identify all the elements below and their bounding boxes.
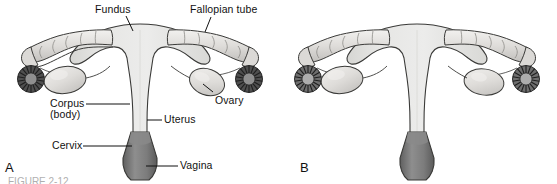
label-cervix: Cervix — [52, 140, 82, 152]
cervix-region — [129, 132, 151, 145]
leader-fallopian-tube — [205, 17, 211, 32]
label-uterus: Uterus — [164, 114, 196, 126]
ovarian-ligament-right-b — [448, 66, 467, 78]
label-vagina: Vagina — [180, 160, 213, 172]
ovary-left-b — [319, 64, 364, 97]
ovary-right-b — [462, 66, 505, 97]
cervix-vagina-group — [123, 132, 157, 180]
ovarian-ligament-right — [171, 66, 190, 78]
ovary-left — [42, 64, 87, 97]
panel-letter-a: A — [5, 160, 14, 175]
ovarian-ligament-left-b — [363, 66, 387, 78]
cervix-vagina-group-b — [400, 132, 434, 180]
ovarian-ligament-left — [86, 66, 110, 78]
label-fundus: Fundus — [95, 4, 131, 16]
label-corpus-body: (body) — [50, 109, 80, 121]
figure-caption: FIGURE 2-12 — [8, 176, 69, 184]
figure-root: Fundus Fallopian tube Corpus (body) Ovar… — [0, 0, 557, 184]
cervix-region-b — [406, 132, 428, 145]
fimbriae-left — [18, 66, 45, 93]
fimbriae-right-b — [513, 66, 540, 93]
fimbriae-left-b — [295, 66, 322, 93]
panel-a-illustration — [0, 0, 280, 184]
panel-b-illustration — [277, 0, 557, 184]
label-ovary: Ovary — [215, 95, 244, 107]
panel-letter-b: B — [300, 160, 309, 175]
fimbriae-right — [236, 66, 263, 93]
label-fallopian-tube: Fallopian tube — [190, 4, 257, 16]
